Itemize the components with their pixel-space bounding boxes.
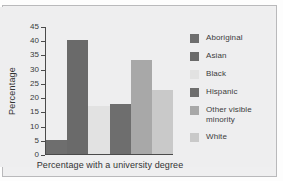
legend-label: Hispanic: [206, 87, 237, 97]
y-tick-label: 25: [30, 80, 39, 88]
y-tick-label: 40: [30, 37, 39, 45]
legend-swatch-icon: [190, 70, 199, 79]
legend-label: Black: [206, 69, 226, 79]
bar-aboriginal: [46, 140, 67, 154]
chart-legend: AboriginalAsianBlackHispanicOther visibl…: [190, 33, 274, 150]
y-tick-mark: [41, 155, 45, 156]
chart-canvas: Percentage 454035302520151050 Percentage…: [0, 7, 273, 167]
y-axis-title: Percentage: [6, 27, 18, 155]
bar-asian: [67, 40, 88, 154]
bar-white: [152, 90, 173, 154]
legend-label: Other visible minority: [206, 105, 274, 124]
legend-swatch-icon: [190, 133, 199, 142]
legend-item: Other visible minority: [190, 105, 274, 124]
legend-swatch-icon: [190, 52, 199, 61]
legend-item: Hispanic: [190, 87, 274, 97]
chart-page: Percentage 454035302520151050 Percentage…: [0, 0, 283, 181]
bar-black: [88, 106, 109, 154]
y-tick-label: 45: [30, 23, 39, 31]
y-tick-label: 10: [30, 123, 39, 131]
y-tick-label: 20: [30, 94, 39, 102]
bar-series: [46, 27, 173, 154]
y-tick-label: 35: [30, 51, 39, 59]
legend-label: Asian: [206, 51, 227, 61]
y-tick-label: 0: [35, 151, 39, 159]
legend-item: Aboriginal: [190, 33, 274, 43]
y-tick-label: 15: [30, 108, 39, 116]
bar-hispanic: [110, 104, 131, 154]
legend-swatch-icon: [190, 88, 199, 97]
legend-label: White: [206, 132, 227, 142]
legend-label: Aboriginal: [206, 33, 243, 43]
bar-other-visible-minority: [131, 60, 152, 154]
legend-item: Asian: [190, 51, 274, 61]
legend-swatch-icon: [190, 34, 199, 43]
y-tick-label: 30: [30, 66, 39, 74]
legend-item: White: [190, 132, 274, 142]
legend-swatch-icon: [190, 106, 199, 115]
legend-item: Black: [190, 69, 274, 79]
plot-area: [45, 27, 173, 155]
y-tick-label: 5: [35, 137, 39, 145]
x-axis-title: Percentage with a university degree: [20, 160, 200, 170]
